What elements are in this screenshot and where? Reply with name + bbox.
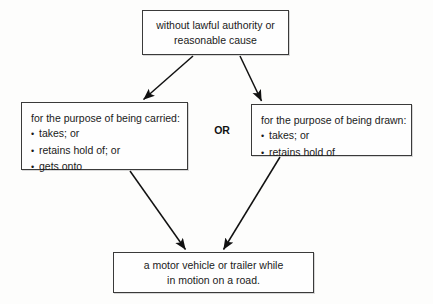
node-motor-vehicle-or-trailer: a motor vehicle or trailer while in moti… — [113, 252, 314, 293]
node-purpose-being-drawn: for the purpose of being drawn: • takes;… — [251, 104, 412, 156]
node-right-bullet-1-label: takes; or — [269, 128, 309, 144]
node-left-bullet-1-label: takes; or — [39, 126, 79, 142]
node-top-line-1: without lawful authority or — [156, 18, 274, 33]
node-purpose-being-carried: for the purpose of being carried: • take… — [21, 102, 188, 170]
bullet-icon: • — [261, 129, 269, 145]
node-right-bullet-2: • retains hold of — [261, 145, 411, 162]
bullet-icon: • — [31, 127, 39, 143]
node-left-bullet-3: • gets onto — [31, 159, 187, 176]
connector-label-or: OR — [202, 124, 242, 136]
node-left-heading: for the purpose of being carried: — [31, 111, 187, 126]
edge-left-to-bottom — [130, 171, 186, 250]
node-left-bullet-1: • takes; or — [31, 126, 187, 143]
bullet-icon: • — [261, 146, 269, 162]
bullet-icon: • — [31, 144, 39, 160]
node-top-line-2: reasonable cause — [174, 33, 257, 48]
node-right-bullet-1: • takes; or — [261, 128, 411, 145]
edge-top-to-left — [144, 56, 194, 100]
node-left-bullet-2-label: retains hold of; or — [39, 143, 120, 159]
edge-top-to-right — [240, 56, 262, 101]
node-bottom-line-2: in motion on a road. — [167, 273, 260, 288]
node-left-bullet-2: • retains hold of; or — [31, 143, 187, 160]
node-right-bullet-2-label: retains hold of — [269, 145, 335, 161]
node-right-heading: for the purpose of being drawn: — [261, 113, 411, 128]
node-left-bullet-3-label: gets onto — [39, 159, 82, 175]
node-without-lawful-authority: without lawful authority or reasonable c… — [142, 10, 289, 55]
flowchart-canvas: without lawful authority or reasonable c… — [0, 0, 433, 304]
node-bottom-line-1: a motor vehicle or trailer while — [144, 258, 283, 273]
edge-right-to-bottom — [224, 157, 281, 250]
bullet-icon: • — [31, 160, 39, 176]
